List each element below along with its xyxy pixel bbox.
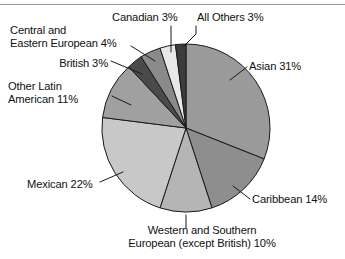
slice-label-british: British 3% — [16, 57, 108, 70]
slice-label-western-southern-european-line2: European (except British) 10% — [128, 237, 275, 249]
slice-label-western-southern-european: Western and Southern European (except Br… — [112, 224, 292, 251]
slice-label-canadian: Canadian 3% — [112, 11, 178, 24]
slice-label-caribbean: Caribbean 14% — [252, 193, 327, 206]
slice-label-asian: Asian 31% — [249, 60, 301, 73]
slice-label-western-southern-european-line1: Western and Southern — [148, 224, 257, 236]
slice-label-mexican: Mexican 22% — [27, 178, 93, 191]
slice-label-other-latin-american-line1: Other Latin — [8, 80, 62, 92]
pie-chart-figure: Canadian 3% All Others 3% Central and Ea… — [0, 0, 345, 259]
slice-label-all-others: All Others 3% — [197, 11, 263, 24]
slice-label-central-eastern-european-line2: Eastern European 4% — [10, 37, 117, 49]
slice-label-other-latin-american: Other Latin American 11% — [8, 80, 108, 107]
slice-label-central-eastern-european-line1: Central and — [10, 24, 66, 36]
slice-label-central-eastern-european: Central and Eastern European 4% — [10, 24, 130, 51]
slice-label-other-latin-american-line2: American 11% — [8, 93, 78, 105]
